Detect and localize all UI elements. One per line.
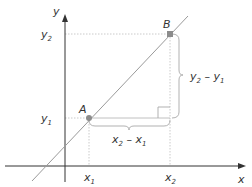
rise-label: y2 – y1 <box>189 70 224 85</box>
line-through-points <box>32 16 188 181</box>
y-axis-label: y <box>52 5 60 18</box>
point-a <box>86 115 92 121</box>
right-angle-marker <box>158 107 170 118</box>
point-a-label: A <box>78 103 87 116</box>
x2-tick-label: x2 <box>164 171 177 186</box>
point-b <box>167 31 173 37</box>
x-axis-arrow-icon <box>238 163 246 169</box>
vertical-brace <box>172 34 183 118</box>
diagram-canvas: y x A B y2 y1 x1 x2 y2 – y1 x2 – x1 <box>0 0 252 187</box>
y1-tick-label: y1 <box>40 112 52 127</box>
x1-tick-label: x1 <box>83 171 95 186</box>
guide-lines <box>65 34 170 166</box>
y2-tick-label: y2 <box>40 28 53 43</box>
y-axis-arrow-icon <box>62 14 68 22</box>
run-label: x2 – x1 <box>111 133 146 148</box>
point-b-label: B <box>163 18 171 31</box>
x-axis-label: x <box>237 173 245 186</box>
horizontal-brace <box>89 120 170 130</box>
